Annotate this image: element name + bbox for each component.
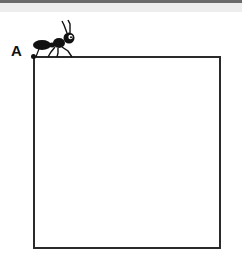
vertex-a-label: A xyxy=(11,43,22,58)
square-shape xyxy=(33,56,221,249)
top-shade-band xyxy=(0,3,242,12)
ant-icon xyxy=(32,16,82,58)
